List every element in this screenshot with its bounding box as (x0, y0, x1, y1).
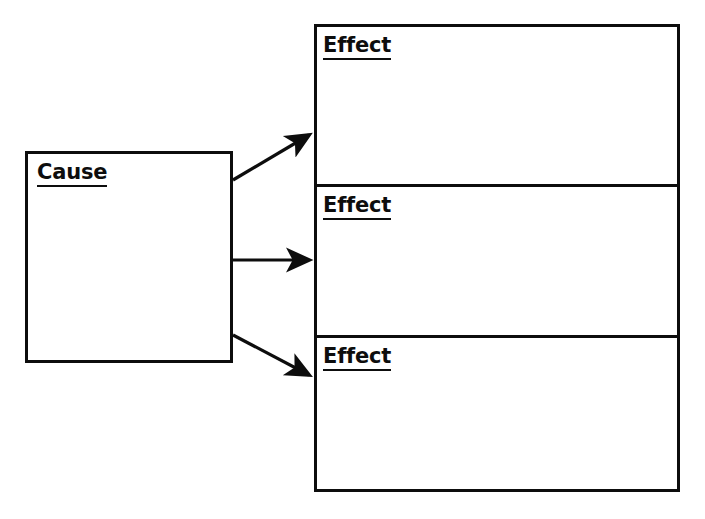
effect-box-2[interactable]: Effect (317, 184, 677, 335)
cause-label: Cause (37, 159, 107, 187)
effect-label-2: Effect (323, 192, 391, 220)
effect-label-1: Effect (323, 32, 391, 60)
effect-box-1[interactable]: Effect (317, 27, 677, 184)
diagram-canvas: Cause Effect Effect Effect (0, 0, 705, 519)
effect-box-3[interactable]: Effect (317, 335, 677, 489)
arrow-cause-to-effect-3 (233, 335, 309, 375)
effect-label-3: Effect (323, 343, 391, 371)
effects-container: Effect Effect Effect (314, 24, 680, 492)
cause-box[interactable]: Cause (25, 151, 233, 363)
arrow-cause-to-effect-1 (233, 135, 309, 180)
